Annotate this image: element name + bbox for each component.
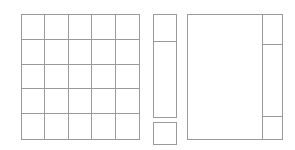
grid-cell[interactable]: [22, 40, 45, 65]
grid-cell[interactable]: [22, 15, 45, 40]
right-main-area[interactable]: [188, 15, 263, 139]
middle-column: [153, 14, 177, 145]
middle-stack-cell-body[interactable]: [154, 42, 176, 117]
left-grid-panel[interactable]: [21, 14, 140, 140]
middle-stacked-panel[interactable]: [153, 14, 177, 118]
grid-cell[interactable]: [116, 114, 139, 139]
wireframe-canvas: [0, 0, 295, 150]
grid-cell[interactable]: [69, 89, 92, 114]
grid-cell[interactable]: [22, 65, 45, 90]
grid-cell[interactable]: [45, 114, 68, 139]
right-sidebar-column[interactable]: [263, 15, 282, 139]
right-panel[interactable]: [187, 14, 283, 140]
grid-cell[interactable]: [92, 65, 115, 90]
grid-cell[interactable]: [69, 65, 92, 90]
grid-cell[interactable]: [22, 89, 45, 114]
grid-cell[interactable]: [45, 89, 68, 114]
grid-cell[interactable]: [92, 15, 115, 40]
grid-cell[interactable]: [45, 15, 68, 40]
middle-detached-box[interactable]: [153, 122, 177, 145]
grid-cell[interactable]: [92, 89, 115, 114]
grid-cell[interactable]: [116, 40, 139, 65]
right-sidebar-cell-middle[interactable]: [263, 45, 282, 118]
grid-cell[interactable]: [69, 114, 92, 139]
grid-cell[interactable]: [22, 114, 45, 139]
right-sidebar-cell-bottom[interactable]: [263, 117, 282, 139]
grid-cell[interactable]: [116, 15, 139, 40]
grid-cell[interactable]: [69, 40, 92, 65]
right-sidebar-cell-top[interactable]: [263, 15, 282, 45]
grid-cell[interactable]: [69, 15, 92, 40]
grid-cell[interactable]: [92, 40, 115, 65]
grid-cell[interactable]: [116, 89, 139, 114]
grid-cell[interactable]: [116, 65, 139, 90]
grid-cell[interactable]: [92, 114, 115, 139]
grid-cell[interactable]: [45, 65, 68, 90]
grid-cell[interactable]: [45, 40, 68, 65]
middle-stack-cell-top[interactable]: [154, 15, 176, 42]
